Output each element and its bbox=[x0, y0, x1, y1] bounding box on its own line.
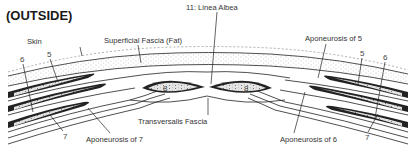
right-number-6: 6 bbox=[383, 53, 388, 62]
rectus-muscle-right bbox=[209, 81, 272, 93]
leader-skin bbox=[80, 47, 82, 56]
right-lateral-muscles bbox=[248, 76, 408, 145]
orientation-title: (OUTSIDE) bbox=[6, 8, 72, 23]
label-aponeurosis-7: Aponeurosis of 7 bbox=[86, 135, 143, 144]
rectus-right-number: 8 bbox=[244, 84, 249, 93]
rectus-left-number: 8 bbox=[163, 84, 168, 93]
left-number-7: 7 bbox=[63, 132, 68, 141]
label-aponeurosis-6: Aponeurosis of 6 bbox=[280, 135, 337, 144]
label-transversalis-fascia: Transversalis Fascia bbox=[138, 117, 208, 126]
leader-aponeurosis-6 bbox=[294, 92, 305, 133]
right-number-5: 5 bbox=[360, 49, 365, 58]
label-superficial-fascia: Superficial Fascia (Fat) bbox=[104, 36, 183, 45]
rectus-muscle-left bbox=[142, 81, 205, 93]
label-aponeurosis-5: Aponeurosis of 5 bbox=[305, 34, 362, 43]
label-linea-alba: 11: Linea Albea bbox=[186, 3, 239, 12]
left-number-6: 6 bbox=[20, 55, 25, 64]
leader-aponeurosis-7 bbox=[88, 108, 110, 133]
right-number-7: 7 bbox=[365, 133, 370, 142]
leader-linea-alba bbox=[211, 12, 217, 84]
abdominal-wall-cross-section: (OUTSIDE) bbox=[0, 0, 414, 160]
label-skin: Skin bbox=[27, 37, 42, 46]
left-number-5: 5 bbox=[47, 50, 52, 59]
